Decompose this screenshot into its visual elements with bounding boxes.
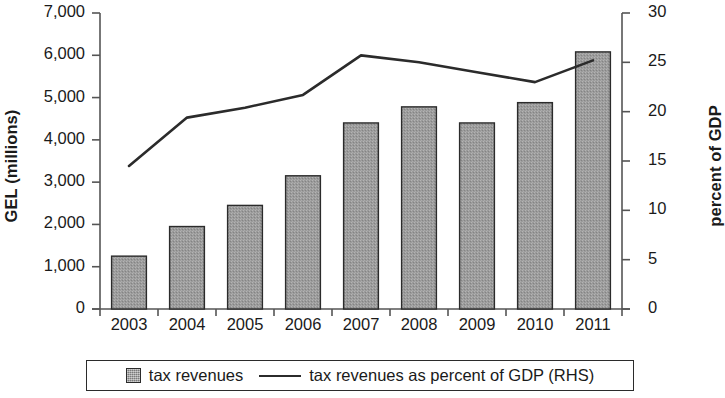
chart-legend: tax revenues tax revenues as percent of … [86, 360, 634, 391]
y-axis-left-tick-label: 6,000 [44, 44, 85, 63]
legend-item-tax-revenues: tax revenues [126, 366, 243, 385]
y-axis-right-ticks [622, 13, 630, 309]
x-axis-tick-label: 2007 [332, 315, 390, 341]
y-axis-right-tick-label: 10 [648, 199, 666, 218]
y-axis-left-tick-label: 1,000 [44, 256, 85, 275]
x-axis-tick-labels: 200320042005200620072008200920102011 [100, 315, 622, 341]
x-axis-tick-label: 2011 [564, 315, 622, 341]
x-axis-tick-label: 2004 [158, 315, 216, 341]
bar [460, 123, 495, 309]
legend-item-label: tax revenues [149, 366, 243, 385]
bar [518, 103, 553, 309]
legend-item-label: tax revenues as percent of GDP (RHS) [309, 366, 594, 385]
y-axis-left-tick-label: 4,000 [44, 129, 85, 148]
bar [344, 123, 379, 309]
y-axis-left-tick-label: 0 [76, 298, 85, 317]
y-axis-right-tick-label: 0 [648, 298, 657, 317]
y-axis-right-tick-label: 20 [648, 101, 666, 120]
bar [112, 256, 147, 309]
legend-item-percent-of-gdp: tax revenues as percent of GDP (RHS) [259, 366, 594, 385]
x-axis-tick-label: 2005 [216, 315, 274, 341]
y-axis-left-ticks [92, 13, 100, 309]
bar [228, 205, 263, 309]
legend-line-swatch-icon [259, 375, 301, 377]
y-axis-right-tick-label: 5 [648, 249, 657, 268]
bar [402, 107, 437, 309]
x-axis-tick-label: 2003 [100, 315, 158, 341]
y-axis-left-tick-label: 7,000 [44, 2, 85, 21]
y-axis-right-tick-label: 25 [648, 51, 666, 70]
x-axis-tick-label: 2010 [506, 315, 564, 341]
y-axis-left-tick-label: 3,000 [44, 171, 85, 190]
y-axis-right-tick-label: 30 [648, 2, 666, 21]
y-axis-left-tick-label: 2,000 [44, 213, 85, 232]
x-axis-tick-label: 2008 [390, 315, 448, 341]
y-axis-right-tick-label: 15 [648, 150, 666, 169]
bar-series [112, 52, 611, 309]
bar [286, 176, 321, 309]
x-axis-tick-label: 2009 [448, 315, 506, 341]
x-axis-tick-label: 2006 [274, 315, 332, 341]
y-axis-left-tick-label: 5,000 [44, 87, 85, 106]
legend-square-swatch-icon [126, 368, 141, 383]
bar [170, 227, 205, 309]
bar [576, 52, 611, 309]
